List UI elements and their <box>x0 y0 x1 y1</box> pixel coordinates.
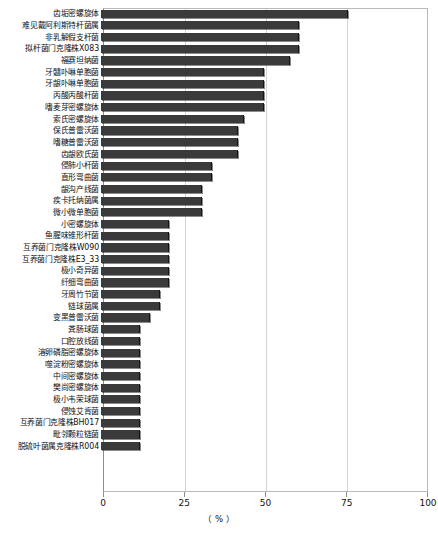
bar <box>101 302 160 310</box>
chart-row: 中间密螺旋体 <box>0 370 438 382</box>
bar <box>101 407 140 415</box>
category-label: 中间密螺旋体 <box>3 372 101 381</box>
bar-track <box>101 183 438 195</box>
chart-row: 牙龈卟啉单胞菌 <box>0 78 438 90</box>
bar <box>101 267 169 275</box>
chart-rows: 齿垢密螺旋体难见戴阿利斯特杆菌属非乳解假支杆菌拟杆菌门克隆株X083福赛坦纳菌牙… <box>0 8 438 452</box>
bar-track <box>101 20 438 32</box>
category-label: 变黑普雷沃菌 <box>3 313 101 322</box>
chart-row: 噬淀粉密螺旋体 <box>0 359 438 371</box>
bar <box>101 325 140 333</box>
chart-row: 非乳解假支杆菌 <box>0 31 438 43</box>
category-label: 难见戴阿利斯特杆菌属 <box>3 21 101 30</box>
bar-track <box>101 207 438 219</box>
chart-row: 溶卵磷脂密螺旋体 <box>0 347 438 359</box>
bar-track <box>101 90 438 102</box>
x-tick-label: 100 <box>419 498 436 508</box>
category-label: 链球菌属 <box>3 302 101 311</box>
bar-track <box>101 137 438 149</box>
bar-track <box>101 289 438 301</box>
bar-track <box>101 102 438 114</box>
category-label: 粪肠球菌 <box>3 325 101 334</box>
bar <box>101 278 169 286</box>
bar <box>101 360 140 368</box>
category-label: 互养菌门克隆株W090 <box>3 243 101 252</box>
chart-row: 索氏密螺旋体 <box>0 113 438 125</box>
bar-track <box>101 277 438 289</box>
category-label: 樊尚密螺旋体 <box>3 383 101 392</box>
bar-track <box>101 417 438 429</box>
bar <box>101 419 140 427</box>
chart-row: 丙酸丙酸杆菌 <box>0 90 438 102</box>
x-tick-25 <box>184 492 185 497</box>
category-label: 拟杆菌门克隆株X083 <box>3 44 101 53</box>
bar-track <box>101 359 438 371</box>
bar <box>101 173 212 181</box>
category-label: 牙髓卟啉单胞菌 <box>3 68 101 77</box>
category-label: 侵肺小杆菌 <box>3 161 101 170</box>
bar-track <box>101 148 438 160</box>
bar-track <box>101 253 438 265</box>
category-label: 牙周竹节菌 <box>3 290 101 299</box>
bar <box>101 384 140 392</box>
x-tick-label: 25 <box>179 498 190 508</box>
bar-track <box>101 394 438 406</box>
category-label: 互养菌门克隆株BH017 <box>3 418 101 427</box>
bar <box>101 313 150 321</box>
category-label: 纤细弯曲菌 <box>3 278 101 287</box>
chart-row: 纤细弯曲菌 <box>0 277 438 289</box>
chart-row: 保氏普雷沃菌 <box>0 125 438 137</box>
chart-row: 鱼腥味锥形杆菌 <box>0 230 438 242</box>
bacteria-detection-rate-bar-chart: 齿垢密螺旋体难见戴阿利斯特杆菌属非乳解假支杆菌拟杆菌门克隆株X083福赛坦纳菌牙… <box>0 0 438 535</box>
bar-track <box>101 312 438 324</box>
category-label: 脱硫叶菌属克隆株R004 <box>3 442 101 451</box>
chart-row: 嗜麦芽密螺旋体 <box>0 102 438 114</box>
category-label: 小密螺旋体 <box>3 220 101 229</box>
bar-track <box>101 172 438 184</box>
chart-row: 直形弯曲菌 <box>0 172 438 184</box>
category-label: 牙龈卟啉单胞菌 <box>3 79 101 88</box>
bar-track <box>101 242 438 254</box>
bar <box>101 255 169 263</box>
bar-track <box>101 125 438 137</box>
chart-row: 难见戴阿利斯特杆菌属 <box>0 20 438 32</box>
bar-track <box>101 335 438 347</box>
bar <box>101 442 140 450</box>
bar-track <box>101 195 438 207</box>
category-label: 口腔放线菌 <box>3 337 101 346</box>
category-label: 齿龈欧氏菌 <box>3 150 101 159</box>
bar <box>101 197 202 205</box>
chart-row: 互养菌门克隆株W090 <box>0 242 438 254</box>
chart-row: 齿龈欧氏菌 <box>0 148 438 160</box>
bar-track <box>101 66 438 78</box>
bar <box>101 45 299 53</box>
bar-track <box>101 324 438 336</box>
chart-row: 互养菌门克隆株BH017 <box>0 417 438 429</box>
bar <box>101 91 264 99</box>
x-tick-75 <box>346 492 347 497</box>
bar-track <box>101 382 438 394</box>
bar-track <box>101 160 438 172</box>
chart-row: 脱硫叶菌属克隆株R004 <box>0 440 438 452</box>
bar <box>101 208 202 216</box>
bar-track <box>101 113 438 125</box>
category-label: 福赛坦纳菌 <box>3 56 101 65</box>
bar <box>101 220 169 228</box>
chart-row: 粪肠球菌 <box>0 324 438 336</box>
chart-row: 变黑普雷沃菌 <box>0 312 438 324</box>
bar-track <box>101 429 438 441</box>
bar-track <box>101 405 438 417</box>
category-label: 噬淀粉密螺旋体 <box>3 360 101 369</box>
bar <box>101 21 299 29</box>
bar-track <box>101 300 438 312</box>
category-label: 互养菌门克隆株E3_33 <box>3 255 101 264</box>
chart-row: 互养菌门克隆株E3_33 <box>0 253 438 265</box>
bar-track <box>101 55 438 67</box>
bar-track <box>101 265 438 277</box>
bar-track <box>101 370 438 382</box>
category-label: 极小韦荣球菌 <box>3 395 101 404</box>
category-label: 龈沟产线菌 <box>3 185 101 194</box>
chart-row: 牙髓卟啉单胞菌 <box>0 66 438 78</box>
category-label: 侵蚀艾肯菌 <box>3 407 101 416</box>
x-tick-100 <box>427 492 428 497</box>
